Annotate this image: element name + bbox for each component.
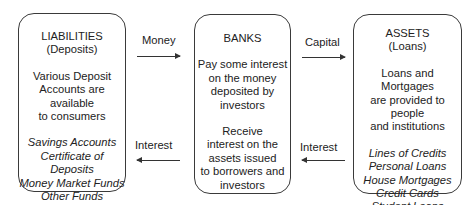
liabilities-title: LIABILITIES — [19, 30, 125, 43]
interest-right-arrow-label: Interest — [300, 141, 337, 153]
assets-box: ASSETS (Loans) Loans and Mortgages are p… — [353, 14, 462, 194]
interest-right-arrow-icon — [302, 160, 345, 161]
assets-item: Lines of Credits — [354, 147, 461, 160]
assets-desc-line: are provided to people — [354, 94, 461, 121]
liabilities-item: Money Market Funds — [19, 177, 125, 190]
banks-pay-line: on the money — [195, 72, 290, 85]
money-arrow-label: Money — [142, 34, 176, 46]
liabilities-desc-line: to consumers — [19, 110, 125, 123]
assets-item: Credit Cards — [354, 187, 461, 200]
liabilities-description: Various Deposit Accounts are available t… — [19, 70, 125, 124]
assets-desc-line: and institutions — [354, 120, 461, 133]
banks-pay-line: deposited by — [195, 85, 290, 98]
liabilities-ellipsis: ... — [19, 203, 125, 205]
banks-pay-line: Pay some interest — [195, 58, 290, 71]
liabilities-box: LIABILITIES (Deposits) Various Deposit A… — [18, 13, 126, 192]
assets-desc-line: Loans and Mortgages — [354, 67, 461, 94]
banks-receive-line: investors — [195, 179, 290, 192]
interest-left-arrow-icon — [137, 160, 180, 161]
assets-description: Loans and Mortgages are provided to peop… — [354, 67, 461, 134]
banks-receive-line: to borrowers and — [195, 165, 290, 178]
liabilities-desc-line: Accounts are available — [19, 83, 125, 110]
interest-left-arrow-label: Interest — [135, 139, 172, 151]
money-arrow-icon — [137, 56, 180, 57]
banks-receive-line: interest on the — [195, 138, 290, 151]
capital-arrow-icon — [302, 57, 345, 58]
liabilities-item: Savings Accounts — [19, 136, 125, 149]
assets-item: House Mortgages — [354, 174, 461, 187]
liabilities-item: Other Funds — [19, 190, 125, 203]
assets-items: Lines of Credits Personal Loans House Mo… — [354, 147, 461, 205]
assets-item: Personal Loans — [354, 160, 461, 173]
banks-receive-line: assets issued — [195, 152, 290, 165]
liabilities-item: Certificate of Deposits — [19, 150, 125, 177]
banks-pay-text: Pay some interest on the money deposited… — [195, 58, 290, 112]
liabilities-subtitle: (Deposits) — [19, 43, 125, 56]
assets-subtitle: (Loans) — [354, 40, 461, 53]
liabilities-items: Savings Accounts Certificate of Deposits… — [19, 136, 125, 205]
banks-box: BANKS Pay some interest on the money dep… — [194, 14, 291, 194]
assets-item: Student Loans — [354, 200, 461, 205]
banks-pay-line: investors — [195, 99, 290, 112]
banks-receive-text: Receive interest on the assets issued to… — [195, 125, 290, 192]
capital-arrow-label: Capital — [305, 36, 340, 48]
assets-title: ASSETS — [354, 27, 461, 40]
liabilities-desc-line: Various Deposit — [19, 70, 125, 83]
banks-title: BANKS — [195, 32, 290, 45]
banks-receive-line: Receive — [195, 125, 290, 138]
